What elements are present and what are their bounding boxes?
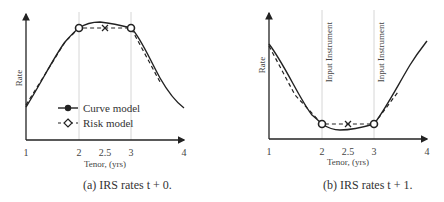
y-axis-label: Rate	[14, 70, 24, 87]
cross-marker	[345, 121, 351, 127]
chart-panel-b: Input Instrument Input Instrument Rate 1…	[257, 10, 430, 167]
legend: Curve model Risk model	[58, 102, 140, 129]
curve-model-line	[26, 22, 184, 108]
open-diamond-icon	[64, 119, 72, 127]
figure: Curve model Risk model Rate 1 2 2.5 3 4 …	[0, 0, 444, 202]
input-node-marker	[76, 25, 83, 32]
caption-a: (a) IRS rates t + 0.	[83, 178, 172, 193]
x-tick-label: 2	[77, 147, 82, 158]
legend-curve-label: Curve model	[83, 102, 140, 114]
x-tick-label: 2.5	[342, 146, 355, 157]
input-instrument-annotation: Input Instrument	[376, 22, 386, 83]
x-tick-label: 3	[129, 147, 134, 158]
filled-circle-icon	[65, 105, 71, 111]
x-tick-label: 1	[24, 147, 29, 158]
caption-b: (b) IRS rates t + 1.	[323, 178, 412, 193]
input-instrument-annotation: Input Instrument	[324, 22, 334, 83]
x-tick-label: 2.5	[99, 147, 112, 158]
x-axis-label: Tenor, (yrs)	[327, 157, 369, 167]
legend-risk-label: Risk model	[83, 117, 133, 129]
x-tick-label: 4	[425, 146, 430, 157]
x-tick-label: 3	[372, 146, 377, 157]
input-node-marker	[128, 25, 135, 32]
chart-panel-a: Curve model Risk model Rate 1 2 2.5 3 4 …	[14, 12, 187, 169]
curve-model-line	[269, 41, 427, 130]
input-node-marker	[371, 121, 378, 128]
x-tick-label: 1	[267, 146, 272, 157]
y-axis-label: Rate	[257, 57, 267, 74]
input-node-marker	[319, 121, 326, 128]
x-tick-label: 2	[320, 146, 325, 157]
x-tick-label: 4	[182, 147, 187, 158]
x-axis-label: Tenor, (yrs)	[84, 159, 126, 169]
